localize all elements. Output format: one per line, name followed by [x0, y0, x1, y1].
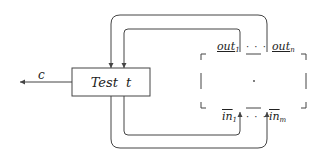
diagram-canvas — [0, 0, 325, 156]
out-n-sub: n — [290, 46, 295, 54]
out-1-label: out1 — [217, 41, 240, 54]
outer-bottom-feed-path — [111, 96, 267, 148]
center-dot — [253, 80, 255, 82]
c-output-label: c — [38, 69, 45, 81]
out-n-name: out — [272, 40, 290, 53]
out-n-label: outn — [272, 41, 295, 54]
in-m-name: in — [269, 110, 280, 123]
in-1-label: in1 — [222, 111, 237, 124]
in-dots: · · · — [246, 112, 267, 122]
out-1-sub: 1 — [235, 46, 239, 54]
test-box-label: Test t — [72, 68, 150, 96]
in-1-sub: 1 — [233, 116, 237, 124]
out-1-name: out — [217, 40, 235, 53]
in-m-label: inm — [269, 111, 286, 124]
outer-top-feedback-path — [111, 15, 267, 68]
out-dots: · · · — [246, 42, 267, 52]
in-1-name: in — [222, 110, 233, 123]
in-m-sub: m — [280, 116, 287, 124]
